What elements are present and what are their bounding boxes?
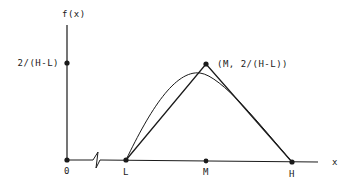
axis-break-icon [93, 152, 100, 168]
y-tick-point [64, 60, 69, 65]
label-L: L [123, 167, 129, 177]
point-L [123, 157, 128, 162]
point-M [204, 159, 209, 164]
point-H [289, 159, 294, 164]
y-tick-label: 2/(H-L) [18, 58, 59, 68]
peak-label: (M, 2/(H-L)) [217, 59, 288, 69]
label-H: H [289, 169, 295, 179]
origin-point [64, 157, 69, 162]
x-axis-label: x [332, 157, 338, 167]
origin-label: 0 [64, 166, 70, 176]
smooth-curve [126, 73, 292, 162]
label-M: M [203, 167, 209, 177]
triangular-distribution-diagram: f(x) 2/(H-L) x 0 L M H (M, 2/(H-L)) [0, 0, 353, 192]
peak-point [203, 61, 208, 66]
y-axis-label: f(x) [62, 9, 86, 19]
x-axis [100, 160, 318, 162]
